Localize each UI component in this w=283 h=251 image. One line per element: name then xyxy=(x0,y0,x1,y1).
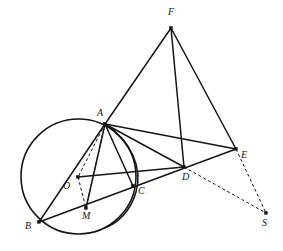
point-marker-A xyxy=(103,122,106,125)
point-label-B: B xyxy=(25,221,31,231)
point-marker-O xyxy=(76,175,79,178)
segment-A-C xyxy=(105,124,133,186)
point-label-E: E xyxy=(241,150,247,160)
geometry-svg xyxy=(0,0,283,251)
point-label-A: A xyxy=(97,108,103,118)
segment-O-M-dashed xyxy=(78,177,86,208)
geometry-figure-canvas: F A E D C O M B S xyxy=(0,0,283,251)
point-marker-C xyxy=(131,184,134,187)
point-label-C: C xyxy=(138,186,145,196)
point-marker-E xyxy=(234,147,237,150)
segment-A-E xyxy=(105,124,236,149)
segment-A-O-dashed xyxy=(78,124,105,177)
point-label-S: S xyxy=(262,218,267,228)
point-label-F: F xyxy=(168,7,174,17)
point-label-D: D xyxy=(182,172,189,182)
segment-A-B xyxy=(39,124,105,222)
point-label-O: O xyxy=(63,181,70,191)
point-marker-D xyxy=(182,165,185,168)
point-marker-F xyxy=(169,26,172,29)
point-marker-B xyxy=(37,220,40,223)
point-marker-S xyxy=(264,211,267,214)
point-label-M: M xyxy=(82,211,90,221)
segment-F-A xyxy=(105,28,171,124)
segment-D-S-dashed xyxy=(184,167,266,213)
segment-A-D xyxy=(105,124,184,167)
